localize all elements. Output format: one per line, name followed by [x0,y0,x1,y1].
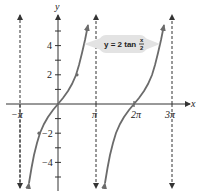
y-axis-label: y [54,1,60,12]
tick-label-pi: π [92,109,98,120]
tick-label-neg-pi: −π [11,109,24,120]
tick-label-yneg4: −4 [42,157,53,168]
tick-label-y2: 2 [47,69,52,80]
tick-label-2pi: 2π [131,109,142,120]
equation-lhs: y = 2 tan [104,40,136,49]
tick-label-yneg2: −2 [42,128,53,139]
x-axis-label: x [190,98,196,109]
equation-callout: y = 2 tan x 2 [84,35,160,53]
tan-graph: y x −π π 2π 3π 4 2 −2 −4 y = 2 tan x 2 [0,0,197,194]
tick-label-3pi: 3π [164,109,176,120]
tick-label-y4: 4 [47,40,52,51]
